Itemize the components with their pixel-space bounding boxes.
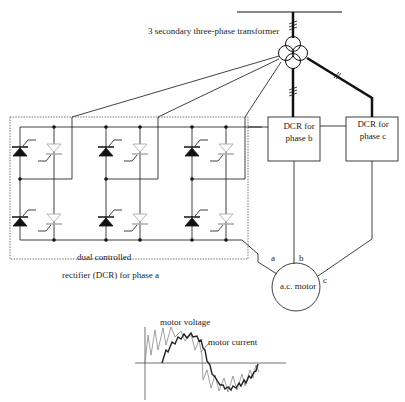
- motor-label: a.c. motor: [280, 281, 316, 292]
- dcr-c-line2: phase c: [348, 131, 398, 142]
- thyristors-dark: [12, 140, 208, 226]
- dcr-a-label-line1: dual controlled: [77, 252, 131, 263]
- current-label: motor current: [208, 337, 257, 348]
- dcr-a-bridge: [20, 117, 268, 262]
- feeder-lines: [289, 58, 372, 117]
- circuit-diagram: [0, 0, 405, 402]
- phase-label-c: c: [323, 275, 327, 286]
- phase-label-b: b: [299, 253, 304, 264]
- dcr-b-label: DCR for phase b: [274, 121, 324, 144]
- thyristors-light: [38, 144, 234, 231]
- motor-connections: [258, 161, 372, 276]
- dcr-phase-a-box: [10, 117, 248, 259]
- phase-label-a: a: [271, 253, 275, 264]
- secondary-lines: [72, 56, 281, 117]
- dcr-c-label: DCR for phase c: [348, 119, 398, 142]
- dcr-c-line1: DCR for: [348, 119, 398, 130]
- dcr-a-label-line2: rectifier (DCR) for phase a: [62, 270, 159, 281]
- transformer-label: 3 secondary three-phase transformer: [148, 26, 279, 37]
- voltage-label: motor voltage: [160, 317, 210, 328]
- transformer-icon: [279, 37, 308, 69]
- dcr-b-line1: DCR for: [274, 121, 324, 132]
- dcr-b-line2: phase b: [274, 133, 324, 144]
